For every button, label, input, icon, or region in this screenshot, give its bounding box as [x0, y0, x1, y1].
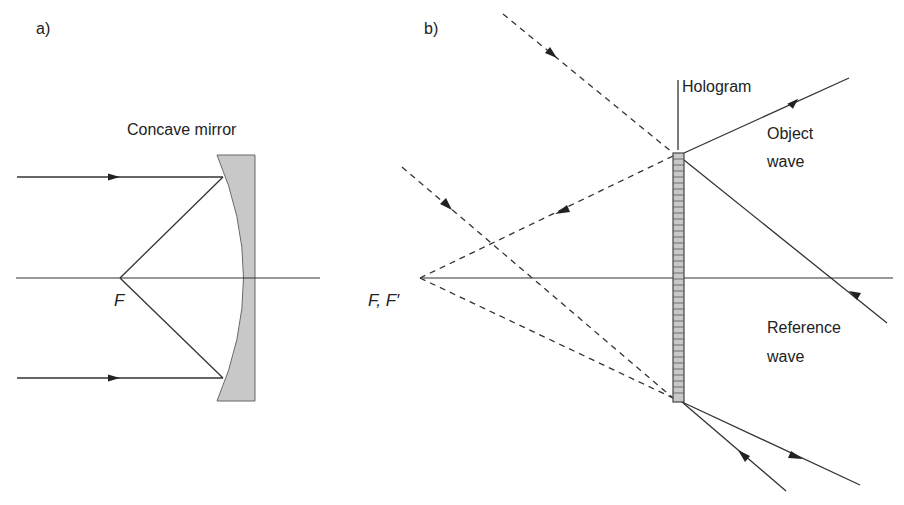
object-wave-label-2: wave [766, 153, 804, 170]
arrow-icon [738, 450, 750, 462]
panel-a-label: a) [36, 20, 50, 37]
reflected-ray-top [120, 177, 223, 278]
reference-wave-label-2: wave [766, 348, 804, 365]
concave-mirror-label: Concave mirror [127, 121, 237, 138]
lower-ray-incoming [682, 402, 786, 491]
panel-b: b) Hologram F, F′ Object wave Reference … [368, 14, 893, 491]
dashed-ray-converging-lower [420, 278, 673, 398]
panel-a: a) Concave mirror F [16, 20, 320, 401]
panel-b-label: b) [424, 20, 438, 37]
arrow-icon [849, 291, 861, 300]
hologram-plate [673, 153, 684, 402]
hologram-label: Hologram [682, 78, 751, 95]
arrow-icon [555, 205, 570, 214]
reflected-ray-bottom [120, 278, 223, 378]
focus-label: F [114, 291, 126, 310]
reference-wave-label-1: Reference [767, 319, 841, 336]
arrow-icon [440, 198, 452, 210]
focus-label: F, F′ [368, 291, 400, 310]
lower-ray-outgoing [682, 402, 860, 485]
optics-diagram: a) Concave mirror F b) Hologram F, F′ [0, 0, 904, 505]
object-wave-label-1: Object [767, 125, 814, 142]
dashed-ray-converging-upper [420, 156, 673, 278]
arrow-icon [108, 174, 120, 181]
dashed-ray-top [503, 14, 673, 153]
arrow-icon [545, 47, 557, 58]
arrow-icon [108, 375, 120, 382]
